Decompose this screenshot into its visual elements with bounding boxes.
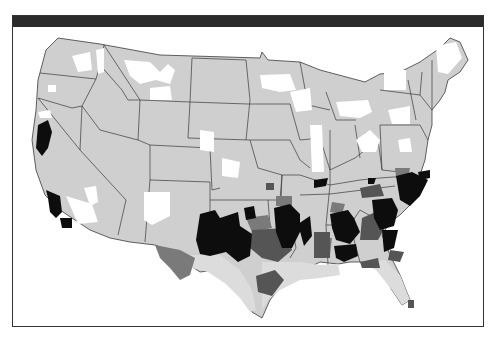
us-county-map [0,0,492,344]
